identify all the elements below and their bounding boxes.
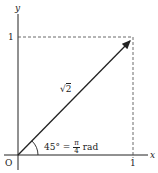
- angle-denominator: 4: [74, 148, 78, 155]
- angle-degrees: 45°: [44, 142, 60, 152]
- sqrt-symbol: √: [60, 84, 66, 94]
- angle-equals: =: [63, 142, 71, 152]
- x-tick-label: 1: [130, 159, 136, 168]
- angle-arc: [32, 141, 38, 155]
- x-axis-label: x: [150, 151, 155, 160]
- y-axis-label: y: [15, 4, 20, 13]
- sqrt-radicand: 2: [66, 83, 72, 94]
- angle-unit: rad: [83, 142, 98, 152]
- angle-label: 45° = π 4 rad: [44, 140, 98, 155]
- angle-fraction: π 4: [73, 140, 80, 155]
- vector-length-label: √2: [60, 85, 71, 94]
- origin-label: O: [5, 159, 12, 168]
- vector-arrow: [18, 41, 130, 155]
- y-tick-label: 1: [8, 33, 14, 42]
